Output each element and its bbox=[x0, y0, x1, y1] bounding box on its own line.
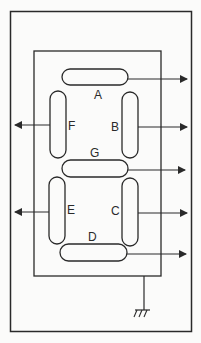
segment-c: C bbox=[111, 178, 187, 246]
segment-g-bar bbox=[62, 160, 128, 177]
segment-c-label: C bbox=[111, 204, 120, 218]
segment-d-label: D bbox=[88, 230, 97, 244]
segment-c-bar bbox=[122, 178, 138, 246]
segment-g-label: G bbox=[90, 146, 99, 160]
segment-f-label: F bbox=[68, 119, 75, 133]
segment-b-bar bbox=[122, 92, 138, 158]
segment-g: G bbox=[62, 146, 185, 177]
segment-b: B bbox=[111, 92, 187, 158]
seven-segment-diagram: A F B G E C D bbox=[0, 0, 201, 343]
segment-a: A bbox=[62, 69, 187, 102]
segment-f: F bbox=[15, 91, 75, 158]
segment-f-bar bbox=[50, 91, 66, 158]
segment-e: E bbox=[15, 177, 75, 244]
outer-frame bbox=[11, 12, 192, 332]
ground-icon bbox=[134, 276, 150, 317]
segment-a-label: A bbox=[94, 88, 102, 102]
segment-e-bar bbox=[49, 177, 65, 244]
segment-e-label: E bbox=[67, 203, 75, 217]
segment-b-label: B bbox=[111, 120, 119, 134]
segment-d: D bbox=[60, 230, 186, 261]
segment-d-bar bbox=[60, 244, 127, 261]
segment-a-bar bbox=[62, 69, 128, 85]
